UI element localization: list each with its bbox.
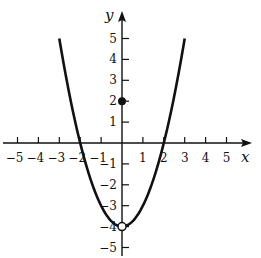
y-tick-label: −4 [99, 220, 117, 234]
y-tick-label: 5 [109, 32, 117, 46]
y-tick-label: −2 [99, 178, 117, 192]
x-tick-label: −4 [27, 151, 45, 165]
y-axis-label: y [104, 6, 114, 24]
graph-canvas: −5−4−3−2−112345−5−4−3−2−112345 x y [0, 0, 261, 258]
axes [3, 11, 252, 256]
y-tick-label: 1 [109, 115, 117, 129]
open-circle [118, 223, 126, 231]
x-tick-label: 1 [139, 151, 147, 165]
x-tick-label: 4 [202, 151, 210, 165]
y-tick-label: 4 [109, 52, 117, 66]
y-tick-label: 2 [109, 94, 117, 108]
y-tick-label: −1 [99, 157, 117, 171]
x-tick-label: 5 [223, 151, 231, 165]
y-tick-label: 3 [109, 73, 117, 87]
y-tick-label: −5 [99, 241, 117, 255]
x-axis-label: x [241, 148, 250, 166]
x-tick-label: 3 [181, 151, 189, 165]
x-tick-label: −3 [47, 151, 65, 165]
filled-point [118, 97, 126, 105]
x-tick-label: −5 [6, 151, 24, 165]
